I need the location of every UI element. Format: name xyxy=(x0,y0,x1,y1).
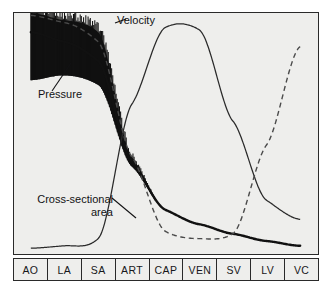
annotation-area-label-line2: area xyxy=(91,206,113,218)
axis-cell-la[interactable]: LA xyxy=(48,259,82,280)
axis-cell-vc[interactable]: VC xyxy=(285,259,318,280)
chart-figure: Velocity Pressure Cross-sectional area A… xyxy=(0,0,331,289)
axis-cell-lv[interactable]: LV xyxy=(251,259,285,280)
annotation-pressure: Pressure xyxy=(38,88,82,101)
axis-cell-ven[interactable]: VEN xyxy=(183,259,217,280)
axis-cell-sa[interactable]: SA xyxy=(82,259,116,280)
annotation-pressure-label: Pressure xyxy=(38,88,82,100)
axis-cell-cap[interactable]: CAP xyxy=(150,259,184,280)
axis-cell-sv[interactable]: SV xyxy=(217,259,251,280)
area-leader-line xyxy=(112,198,136,218)
plot-area xyxy=(13,12,319,255)
annotation-velocity: Velocity xyxy=(117,14,155,27)
axis-cell-ao[interactable]: AO xyxy=(14,259,48,280)
annotation-cross-sectional-area: Cross-sectional area xyxy=(15,193,113,218)
annotation-area-label-line1: Cross-sectional xyxy=(37,193,113,205)
vascular-segment-axis: AOLASAARTCAPVENSVLVVC xyxy=(13,258,319,281)
axis-cell-art[interactable]: ART xyxy=(116,259,150,280)
annotation-velocity-label: Velocity xyxy=(117,14,155,26)
